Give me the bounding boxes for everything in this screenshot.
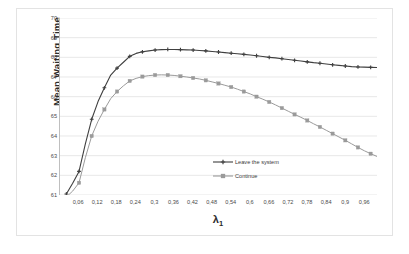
data-point-marker: [356, 146, 359, 149]
data-point-marker: [77, 181, 80, 184]
x-axis-title-subscript: 1: [219, 219, 223, 228]
data-point-marker: [242, 90, 245, 93]
data-point-marker: [90, 117, 94, 121]
data-point-marker: [166, 73, 169, 76]
chart-legend: Leave the systemContinue: [212, 155, 322, 183]
legend-marker-icon: [212, 157, 234, 167]
data-point-marker: [115, 90, 118, 93]
data-point-marker: [229, 51, 233, 55]
data-point-marker: [293, 58, 297, 62]
data-point-marker: [166, 48, 170, 52]
data-point-marker: [179, 48, 183, 52]
x-axis-title: λ1: [59, 213, 377, 228]
data-point-marker: [293, 113, 296, 116]
data-point-marker: [305, 60, 309, 64]
data-point-marker: [153, 73, 156, 76]
y-axis-tick-label: 64: [35, 133, 57, 139]
data-point-marker: [179, 75, 182, 78]
data-point-marker: [280, 106, 283, 109]
legend-marker-icon: [212, 171, 234, 181]
data-point-marker: [318, 61, 322, 65]
data-point-marker: [191, 48, 195, 52]
data-point-marker: [90, 134, 93, 137]
y-axis-tick-label: 62: [35, 172, 57, 178]
legend-item-label: Leave the system: [234, 159, 279, 165]
data-point-marker: [191, 76, 194, 79]
data-point-marker: [242, 52, 246, 56]
data-point-marker: [343, 64, 347, 68]
x-axis-tick-label: 0,96: [349, 199, 379, 205]
data-point-marker: [369, 65, 373, 69]
data-point-marker: [344, 139, 347, 142]
chart-figure: 70696867666564636261 Mean Waiting Time 0…: [0, 0, 409, 254]
data-point-marker: [229, 85, 232, 88]
data-point-marker: [141, 75, 144, 78]
y-axis-tick-label: 61: [35, 192, 57, 198]
data-point-marker: [102, 86, 106, 90]
data-point-marker: [306, 119, 309, 122]
data-point-marker: [217, 82, 220, 85]
data-point-marker: [369, 152, 372, 155]
data-point-marker: [318, 125, 321, 128]
y-axis-tick-label: 63: [35, 153, 57, 159]
legend-item: Leave the system: [212, 155, 322, 169]
data-point-marker: [267, 55, 271, 59]
data-point-marker: [217, 50, 221, 54]
data-point-marker: [103, 108, 106, 111]
data-point-marker: [268, 100, 271, 103]
data-point-marker: [255, 95, 258, 98]
data-point-marker: [204, 49, 208, 53]
legend-item: Continue: [212, 169, 322, 183]
data-point-marker: [204, 79, 207, 82]
data-point-marker: [356, 65, 360, 69]
data-point-marker: [331, 132, 334, 135]
data-point-marker: [128, 79, 131, 82]
data-point-marker: [331, 63, 335, 67]
data-point-marker: [141, 50, 145, 54]
legend-item-label: Continue: [234, 173, 257, 179]
data-point-marker: [153, 48, 157, 52]
x-axis-tick-labels: 0,060,120,180,240,30,360,420,480,540,60,…: [59, 199, 377, 211]
